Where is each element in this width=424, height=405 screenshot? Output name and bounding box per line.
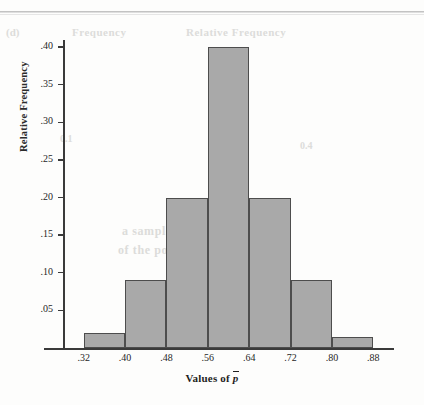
histogram-bar: [125, 280, 166, 348]
y-tick-label: .10: [27, 266, 53, 277]
y-tick-label: .25: [27, 153, 53, 164]
y-tick-label: .05: [27, 303, 53, 314]
x-tick-label: .64: [234, 352, 264, 363]
histogram-bar: [166, 198, 207, 349]
y-tick-mark: [58, 197, 64, 198]
y-tick-mark: [58, 84, 64, 85]
y-tick-label: .35: [27, 78, 53, 89]
x-tick-label: .72: [276, 352, 306, 363]
histogram-bar: [84, 333, 125, 348]
y-tick-mark: [58, 46, 64, 47]
x-axis-line: [44, 348, 394, 350]
x-tick-label: .88: [358, 352, 388, 363]
x-tick-label: .32: [69, 352, 99, 363]
x-axis-title: Values of p: [0, 372, 424, 384]
y-tick-label: .15: [27, 228, 53, 239]
y-tick-label: .30: [27, 115, 53, 126]
x-tick-label: .80: [317, 352, 347, 363]
p-bar-symbol: p: [233, 372, 239, 384]
y-tick-mark: [58, 159, 64, 160]
y-tick-mark: [58, 122, 64, 123]
x-tick-label: .56: [193, 352, 223, 363]
histogram-chart: Relative Frequency .05.10.15.20.25.30.35…: [0, 0, 424, 405]
histogram-bar: [291, 280, 332, 348]
histogram-bar: [249, 198, 290, 349]
y-axis-line: [63, 40, 65, 350]
y-tick-mark: [58, 234, 64, 235]
histogram-bar: [332, 337, 373, 348]
histogram-bar: [208, 47, 249, 348]
y-tick-mark: [58, 272, 64, 273]
x-tick-label: .40: [110, 352, 140, 363]
x-tick-label: .48: [151, 352, 181, 363]
y-tick-label: .40: [27, 40, 53, 51]
y-tick-mark: [58, 310, 64, 311]
y-tick-label: .20: [27, 191, 53, 202]
